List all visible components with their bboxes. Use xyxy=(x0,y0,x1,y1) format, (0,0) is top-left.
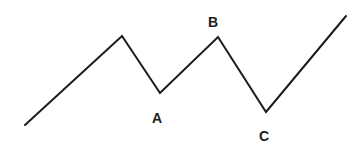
zigzag-polyline xyxy=(25,16,346,125)
vertex-label-c: C xyxy=(259,129,269,143)
vertex-label-b: B xyxy=(208,15,218,29)
zigzag-line-chart xyxy=(0,0,361,148)
zigzag-diagram: A B C xyxy=(0,0,361,148)
vertex-label-a: A xyxy=(152,111,162,125)
